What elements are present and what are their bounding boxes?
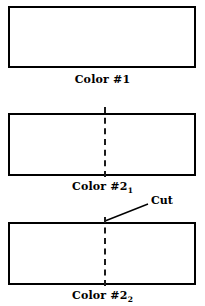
cut-line-2-2 [104,217,106,286]
color-swatch-2-1 [8,113,196,176]
cut-leader-stroke [105,204,148,221]
panel-color-2-1: Color #21 [0,100,205,200]
cut-annotation-label: Cut [151,195,173,207]
caption-color-2-2: Color #22 [0,290,205,303]
caption-color-2-1: Color #21 [0,181,205,194]
caption-color-1: Color #1 [0,74,205,86]
color-swatch-cut-diagram: Color #1 Color #21 Cut Color #22 [0,0,205,306]
panel-color-1: Color #1 [0,0,205,92]
caption-color-2-2-subscript: 2 [128,295,133,304]
panel-color-2-2: Cut Color #22 [0,196,205,306]
caption-color-2-1-subscript: 1 [128,186,133,195]
cut-line-2-1 [104,107,106,177]
color-swatch-1 [8,6,196,68]
caption-color-2-2-text: Color #2 [72,289,128,302]
caption-color-2-1-text: Color #2 [72,180,128,193]
caption-color-1-text: Color #1 [75,73,131,86]
color-swatch-2-2 [8,222,196,285]
